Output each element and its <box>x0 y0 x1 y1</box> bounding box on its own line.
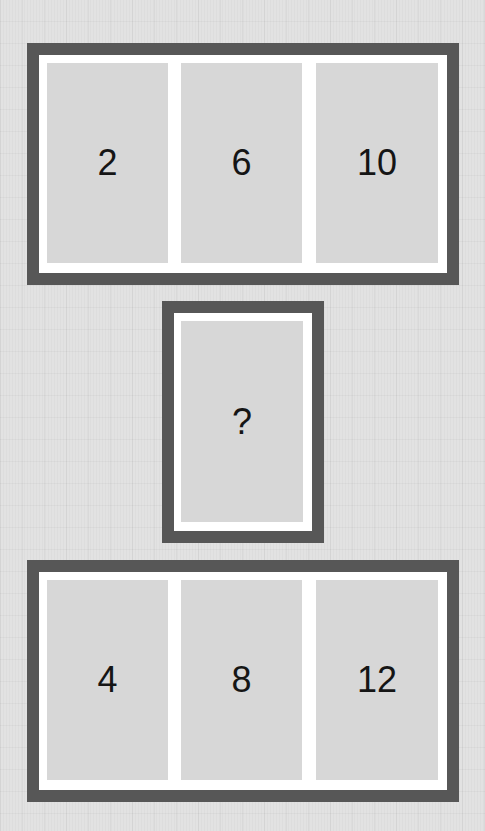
bottom-cell-2: 8 <box>181 580 302 780</box>
top-cell-2-value: 6 <box>231 145 251 181</box>
top-cell-2: 6 <box>181 63 302 263</box>
bottom-cell-3-value: 12 <box>357 662 397 698</box>
bottom-cell-1: 4 <box>47 580 168 780</box>
top-cell-3: 10 <box>316 63 438 263</box>
bottom-cell-2-value: 8 <box>231 662 251 698</box>
bottom-row-frame: 4 8 12 <box>27 560 459 802</box>
question-mark: ? <box>232 404 252 440</box>
top-cell-1: 2 <box>47 63 168 263</box>
top-cell-3-value: 10 <box>357 145 397 181</box>
bottom-cell-3: 12 <box>316 580 438 780</box>
top-cell-1-value: 2 <box>97 145 117 181</box>
unknown-cell: ? <box>181 321 303 522</box>
top-row-frame: 2 6 10 <box>27 43 459 285</box>
middle-frame: ? <box>162 301 324 543</box>
bottom-cell-1-value: 4 <box>97 662 117 698</box>
